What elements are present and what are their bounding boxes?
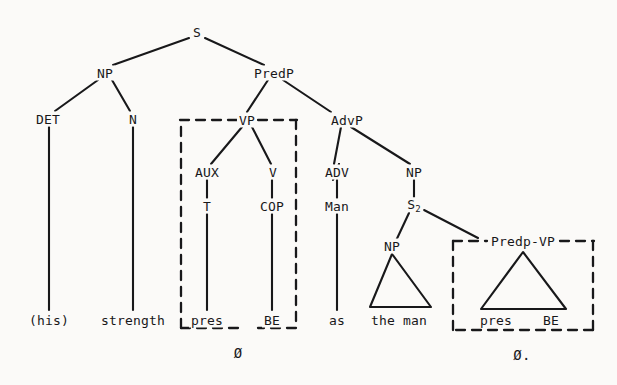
edge-s-predp: [205, 38, 264, 65]
edge-advp-adv-main: [334, 127, 341, 164]
node-np-comparative: NP: [404, 166, 424, 179]
node-cop: COP: [258, 200, 286, 213]
edge-s2-predpvp: [424, 210, 478, 238]
edge-vp-v: [252, 127, 271, 164]
node-s: S: [191, 26, 203, 39]
annotation-empty-left: Ø: [234, 346, 243, 360]
node-t: T: [201, 200, 213, 213]
tree-edges-layer: [0, 0, 617, 385]
node-s2: S2: [405, 198, 423, 214]
node-vp: VP: [237, 114, 257, 127]
terminal-the-man: the man: [371, 314, 427, 327]
node-v: V: [267, 166, 279, 179]
terminal-as: as: [329, 314, 345, 327]
node-adv: ADV: [323, 166, 351, 179]
terminal-be-left: BE: [262, 314, 282, 327]
terminal-be-right: BE: [541, 314, 561, 327]
node-predp-vp: Predp-VP: [489, 235, 557, 248]
edge-np-n: [112, 80, 130, 111]
annotation-empty-right: Ø.: [513, 348, 530, 362]
edge-predp-vp: [247, 80, 268, 112]
node-s2-subscript: 2: [415, 204, 421, 214]
node-aux: AUX: [193, 166, 221, 179]
edge-np-det: [55, 80, 98, 111]
edge-s-np: [113, 38, 189, 65]
edge-vp-aux: [211, 127, 242, 164]
node-s2-label: S: [407, 197, 415, 212]
terminal-his: (his): [29, 314, 69, 327]
node-np-the-man: NP: [382, 240, 402, 253]
node-advp: AdvP: [329, 114, 365, 127]
node-man: Man: [323, 200, 351, 213]
node-predp: PredP: [252, 67, 296, 80]
triangle-predp-vp: [481, 252, 566, 309]
syntax-tree-diagram: S NP PredP DET N VP AdvP AUX V ADV NP T …: [0, 0, 617, 385]
terminal-strength: strength: [101, 314, 165, 327]
node-n: N: [127, 113, 139, 126]
triangle-the-man: [370, 254, 431, 307]
terminal-pres-right: pres: [478, 314, 514, 327]
node-np-subject: NP: [95, 67, 115, 80]
terminal-pres-left: pres: [189, 314, 225, 327]
edge-predp-advp: [283, 80, 331, 112]
node-det: DET: [34, 113, 62, 126]
edge-advp-np: [351, 127, 410, 164]
